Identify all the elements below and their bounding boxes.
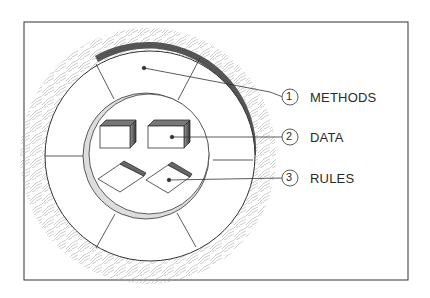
- data-box-2: [148, 120, 190, 148]
- inner-core: [89, 94, 209, 214]
- marker-1-number: 1: [286, 90, 292, 102]
- label-methods: METHODS: [310, 90, 376, 105]
- label-data: DATA: [310, 130, 344, 145]
- label-rules: RULES: [310, 171, 354, 186]
- marker-2-number: 2: [286, 130, 292, 142]
- marker-3-number: 3: [286, 171, 292, 183]
- data-box-1: [100, 120, 136, 148]
- ring-diagram: [0, 0, 430, 298]
